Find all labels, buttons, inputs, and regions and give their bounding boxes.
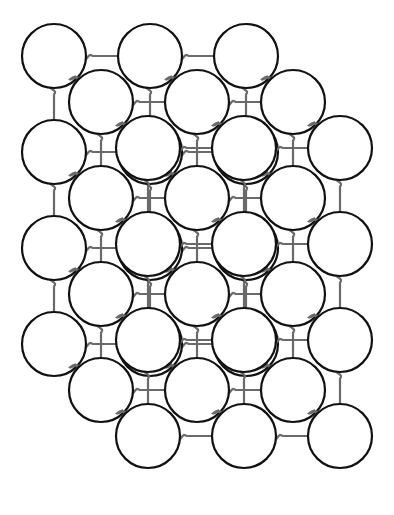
vertical-spring bbox=[335, 177, 342, 214]
lattice-diagram bbox=[0, 0, 394, 515]
vertical-spring bbox=[288, 323, 295, 360]
atom-sphere bbox=[116, 116, 180, 180]
vertical-spring bbox=[96, 323, 103, 360]
vertical-spring bbox=[192, 323, 199, 360]
atom-sphere bbox=[308, 116, 372, 180]
atom-sphere bbox=[116, 308, 180, 372]
horizontal-spring bbox=[273, 435, 310, 442]
vertical-spring bbox=[192, 227, 199, 264]
vertical-spring bbox=[335, 273, 342, 310]
atom-sphere bbox=[116, 404, 180, 468]
atom-sphere bbox=[308, 212, 372, 276]
vertical-spring bbox=[288, 227, 295, 264]
atom-sphere bbox=[308, 308, 372, 372]
atom-sphere bbox=[212, 212, 276, 276]
horizontal-spring bbox=[83, 55, 120, 62]
vertical-spring bbox=[335, 369, 342, 406]
vertical-spring bbox=[288, 131, 295, 168]
vertical-spring bbox=[49, 181, 56, 218]
atom-sphere bbox=[116, 212, 180, 276]
vertical-spring bbox=[96, 227, 103, 264]
atom-sphere bbox=[212, 116, 276, 180]
vertical-spring bbox=[192, 131, 199, 168]
atom-sphere bbox=[212, 308, 276, 372]
atom-sphere bbox=[212, 404, 276, 468]
vertical-spring bbox=[49, 277, 56, 314]
atom-sphere bbox=[308, 404, 372, 468]
horizontal-spring bbox=[177, 435, 214, 442]
vertical-spring bbox=[96, 131, 103, 168]
vertical-spring bbox=[49, 85, 56, 122]
horizontal-spring bbox=[179, 55, 216, 62]
